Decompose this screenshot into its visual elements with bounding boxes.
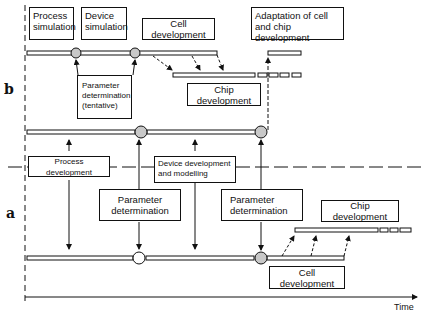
box-cell-development-a: Cell development <box>269 266 345 289</box>
timeline-b-top <box>27 48 301 58</box>
milestone-b3 <box>135 126 147 138</box>
box-adaptation: Adaptation of cell and chip development <box>251 7 344 40</box>
box-chip-development-b: Chip development <box>187 83 261 106</box>
milestone-b1 <box>71 48 81 58</box>
box-process-development: Process development <box>28 156 110 177</box>
box-parameter-determination-2: Parameter determination <box>221 189 303 221</box>
milestone-b4 <box>255 126 267 138</box>
timeline-a-chip <box>295 228 411 232</box>
dashed-arrow-b2 <box>192 56 200 70</box>
box-process-simulation: Process simulation <box>29 7 74 40</box>
dashed-arrow-a3 <box>344 236 349 256</box>
milestone-b2 <box>130 48 140 58</box>
param-arrow-b2 <box>133 60 135 75</box>
milestone-a2 <box>255 252 267 264</box>
box-chip-development-a: Chip development <box>321 200 399 222</box>
timeline-b-bottom <box>27 126 267 138</box>
section-label-b: b <box>4 81 14 97</box>
dashed-arrow-b3 <box>217 55 223 70</box>
timeline-a <box>27 252 344 264</box>
param-arrow-b1 <box>76 60 78 75</box>
dashed-arrow-a1 <box>282 236 294 256</box>
box-device-simulation: Device simulation <box>81 7 127 40</box>
dashed-arrow-a2 <box>311 236 316 256</box>
box-cell-development-b: Cell development <box>142 18 215 40</box>
time-axis-label: Time <box>394 302 414 312</box>
box-parameter-tentative: Parameter determination (tentative) <box>77 75 132 119</box>
timeline-b-chip <box>173 73 301 77</box>
box-parameter-determination-1: Parameter determination <box>99 189 181 221</box>
milestone-a1 <box>133 252 145 264</box>
dashed-arrow-b1 <box>153 56 172 70</box>
box-device-development: Device development and modelling <box>154 156 236 183</box>
section-label-a: a <box>6 205 15 221</box>
